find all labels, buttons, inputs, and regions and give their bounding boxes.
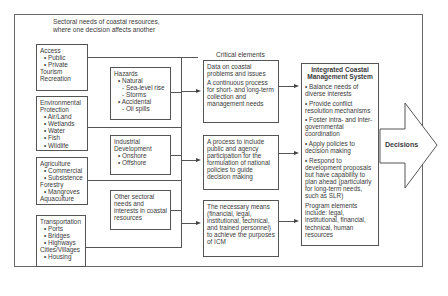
arrow-right-icon — [196, 89, 201, 93]
connector-line — [279, 86, 294, 87]
connector-line — [88, 127, 182, 128]
arrow-right-icon — [294, 219, 299, 223]
connector-line — [171, 210, 182, 211]
arrow-right-icon — [196, 221, 201, 225]
connector-line — [171, 92, 182, 93]
connector-line — [279, 221, 294, 222]
arrow-right-icon — [196, 158, 201, 162]
connector-line — [86, 247, 182, 248]
connector-line — [182, 160, 196, 161]
connector-trunk — [181, 57, 182, 248]
decisions-arrow-icon — [0, 0, 448, 296]
connector-line — [88, 180, 182, 181]
connector-line — [182, 223, 196, 224]
connector-line — [182, 91, 196, 92]
connector-line — [171, 155, 182, 156]
decisions-label: Decisions — [385, 141, 418, 148]
arrow-right-icon — [294, 84, 299, 88]
arrow-right-icon — [294, 151, 299, 155]
connector-line — [279, 153, 294, 154]
